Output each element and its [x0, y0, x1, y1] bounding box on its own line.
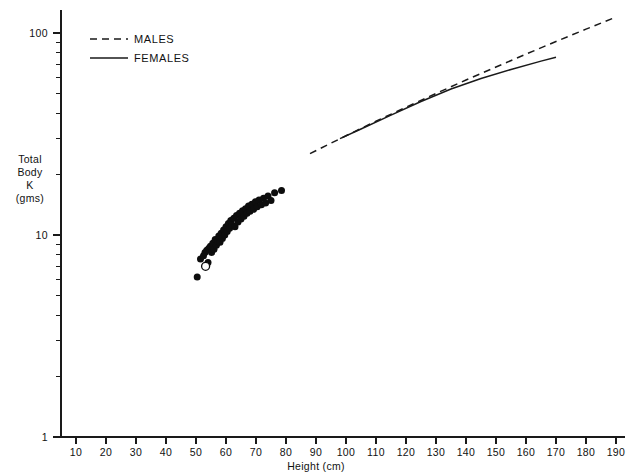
x-tick-label-60: 60	[220, 446, 232, 458]
scatter-points	[194, 187, 285, 280]
x-tick-label-170: 170	[547, 446, 566, 458]
x-tick-label-40: 40	[160, 446, 172, 458]
data-point-open	[202, 262, 210, 270]
x-tick-label-80: 80	[280, 446, 292, 458]
y-tick-label-1: 1	[42, 431, 48, 443]
x-tick-label-160: 160	[517, 446, 536, 458]
x-tick-label-190: 190	[607, 446, 626, 458]
y-tick-label-10: 10	[36, 229, 48, 241]
x-tick-label-10: 10	[70, 446, 82, 458]
y-axis-title-line-1: Body	[17, 166, 43, 178]
y-axis-minor-ticks	[56, 42, 61, 376]
x-tick-label-140: 140	[457, 446, 476, 458]
legend-label-females: FEMALES	[134, 52, 190, 64]
series-line-females	[340, 57, 556, 138]
x-tick-label-50: 50	[190, 446, 202, 458]
x-tick-label-70: 70	[250, 446, 262, 458]
x-tick-label-90: 90	[310, 446, 322, 458]
x-axis-tick-labels: 1020304050607080901001101201301401501601…	[70, 446, 626, 458]
scatter-log-chart: 110100 102030405060708090100110120130140…	[0, 0, 639, 476]
x-axis-major-ticks	[76, 437, 616, 444]
chart-legend: MALES FEMALES	[90, 33, 190, 64]
y-tick-label-100: 100	[29, 27, 48, 39]
data-point	[194, 273, 201, 280]
y-axis-title-line-0: Total	[18, 153, 42, 165]
data-point	[268, 197, 275, 204]
axes	[61, 10, 625, 437]
chart-figure: 110100 102030405060708090100110120130140…	[0, 0, 639, 476]
data-point	[271, 189, 278, 196]
regression-lines	[310, 17, 616, 154]
y-axis-tick-labels: 110100	[29, 27, 48, 443]
legend-label-males: MALES	[134, 33, 174, 45]
x-tick-label-100: 100	[337, 446, 356, 458]
x-tick-label-150: 150	[487, 446, 506, 458]
y-axis-title: TotalBodyK(gms)	[16, 153, 44, 204]
data-point	[278, 187, 285, 194]
x-tick-label-180: 180	[577, 446, 596, 458]
x-tick-label-120: 120	[397, 446, 416, 458]
y-axis-title-line-2: K	[26, 179, 33, 191]
x-axis-title: Height (cm)	[287, 460, 345, 472]
x-tick-label-20: 20	[100, 446, 112, 458]
x-tick-label-110: 110	[367, 446, 385, 458]
x-tick-label-130: 130	[427, 446, 446, 458]
y-axis-title-line-3: (gms)	[16, 192, 44, 204]
x-tick-label-30: 30	[130, 446, 142, 458]
